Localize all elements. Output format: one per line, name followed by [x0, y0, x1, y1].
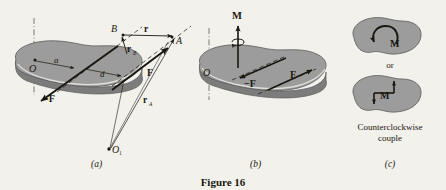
panel-b-label-force-neg-f: −F	[244, 78, 256, 89]
panel-a-label-point-b: B	[111, 23, 117, 34]
panel-a-label-dist-d: d	[100, 69, 105, 79]
panel-c-caption: (c)	[385, 159, 396, 170]
panel-b-group	[199, 26, 326, 100]
panel-a-caption: (a)	[91, 159, 102, 170]
panel-b-label-point-o: O	[203, 67, 210, 78]
panel-a-point-a-dot	[171, 36, 174, 39]
panel-a-label-point-a: A	[175, 35, 183, 46]
panel-b-label-moment-m: M	[232, 10, 242, 21]
panel-a-point-o1-dot	[107, 147, 110, 150]
panel-a-label-vector-r: r	[144, 24, 149, 34]
panel-c-label-moment-pair: M	[380, 90, 390, 101]
panel-c-note-line1: Counterclockwise	[358, 122, 423, 132]
panel-a-label-point-o: O	[29, 63, 36, 74]
panel-a-label-point-o1: O 1	[112, 144, 122, 156]
panel-b-caption: (b)	[250, 159, 261, 170]
figure-caption: Figure 16	[201, 176, 246, 188]
panel-a-label-dist-a: a	[54, 55, 59, 65]
panel-a-label-vector-ra-main: r	[143, 95, 148, 105]
panel-b-label-force-f: F	[290, 69, 296, 80]
figure-container: O a d B A r r B r A F −F O 1 (a) O M −F …	[0, 0, 446, 190]
panel-a-label-force-neg-f: −F	[43, 93, 55, 104]
figure-illustration: O a d B A r r B r A F −F O 1 (a) O M −F …	[0, 0, 446, 190]
panel-a-point-o-dot	[34, 59, 37, 62]
panel-a-group	[15, 18, 191, 151]
panel-a-label-force-f: F	[147, 67, 153, 78]
panel-a-point-b-dot	[122, 34, 125, 37]
panel-a-label-vector-ra: r A	[143, 95, 153, 107]
panel-c-note-line2: couple	[378, 133, 402, 143]
panel-a-label-point-o1-sub: 1	[119, 150, 122, 156]
panel-c-body-top-blob	[353, 18, 421, 55]
panel-a-label-vector-ra-sub: A	[148, 101, 153, 107]
panel-c-label-moment-curved: M	[390, 38, 400, 49]
panel-c-label-or: or	[386, 60, 394, 70]
panel-a-vector-r-arrow	[124, 35, 172, 36]
